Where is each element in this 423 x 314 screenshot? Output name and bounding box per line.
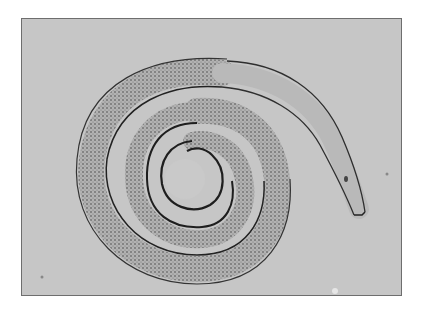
- nematode-stoma: [344, 176, 348, 182]
- nematode-illustration: [22, 19, 402, 296]
- nematode-body: [76, 58, 365, 284]
- debris-speck: [386, 173, 389, 176]
- micrograph-frame: [21, 18, 402, 296]
- debris-speck: [332, 288, 338, 294]
- debris-speck: [41, 276, 44, 279]
